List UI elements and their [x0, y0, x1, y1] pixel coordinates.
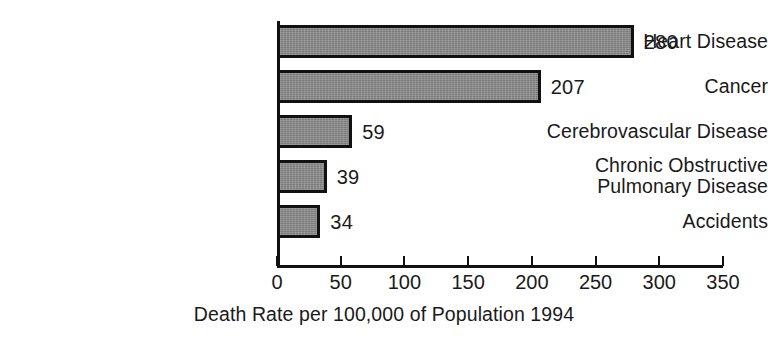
- bar-value-label: 39: [337, 167, 360, 187]
- plot-area: 280 207 59 39 34: [277, 21, 723, 267]
- x-axis-tick: [403, 256, 405, 266]
- x-axis-tick-label: 50: [330, 272, 352, 292]
- x-axis-tick: [467, 256, 469, 266]
- x-axis-tick: [658, 256, 660, 266]
- bar-heart-disease: [277, 25, 634, 58]
- bar-accidents: [277, 205, 320, 238]
- x-axis-tick: [531, 256, 533, 266]
- bar-cancer: [277, 70, 541, 103]
- x-axis-tick-label: 300: [643, 272, 676, 292]
- x-axis-tick-label: 200: [515, 272, 548, 292]
- x-axis-tick-label: 150: [451, 272, 484, 292]
- x-axis-tick: [340, 256, 342, 266]
- x-axis-title: Death Rate per 100,000 of Population 199…: [0, 305, 768, 325]
- x-axis-tick-label: 350: [706, 272, 739, 292]
- x-axis-tick-label: 100: [388, 272, 421, 292]
- x-axis-tick: [722, 256, 724, 266]
- bar-cerebrovascular-disease: [277, 115, 352, 148]
- bar-chronic-obstructive-pulmonary-disease: [277, 160, 327, 193]
- bar-value-label: 34: [330, 212, 353, 232]
- bar-value-label: 280: [644, 32, 678, 52]
- x-axis-tick: [595, 256, 597, 266]
- x-axis-tick-label: 0: [271, 272, 282, 292]
- bar-value-label: 207: [551, 77, 585, 97]
- bar-value-label: 59: [362, 122, 385, 142]
- x-axis-tick: [276, 256, 278, 266]
- bar-chart: Heart Disease Cancer Cerebrovascular Dis…: [0, 0, 768, 343]
- x-axis-tick-label: 250: [579, 272, 612, 292]
